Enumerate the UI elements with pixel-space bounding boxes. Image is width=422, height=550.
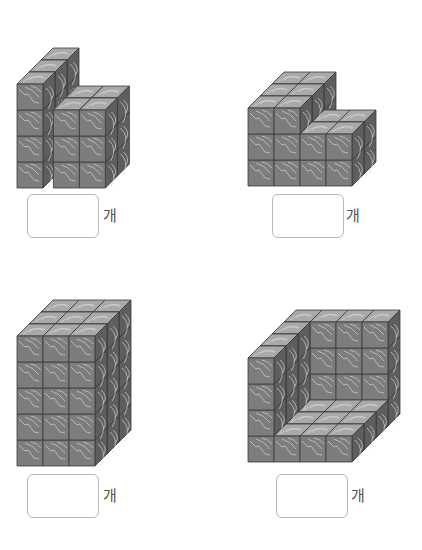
- unit-label-1: 개: [103, 204, 117, 225]
- answer-input-1[interactable]: [27, 194, 99, 238]
- answer-input-3[interactable]: [27, 474, 99, 518]
- answer-input-4[interactable]: [276, 474, 348, 518]
- unit-label-2: 개: [346, 204, 360, 225]
- unit-label-4: 개: [351, 484, 365, 505]
- answer-input-2[interactable]: [272, 194, 344, 238]
- cube-stack-illustration: [0, 0, 422, 550]
- cube-figure-4: [0, 0, 422, 550]
- unit-label-3: 개: [103, 484, 117, 505]
